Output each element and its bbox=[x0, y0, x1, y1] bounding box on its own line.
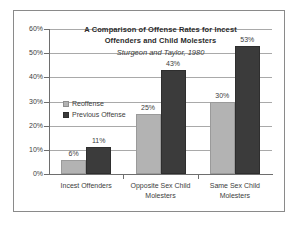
bar bbox=[235, 46, 260, 174]
chart-frame: 0%10%20%30%40%50%60% 6%11%25%43%30%53% I… bbox=[13, 10, 285, 212]
bar bbox=[161, 70, 186, 174]
x-axis-category-label-line: Same Sex Child bbox=[198, 181, 272, 191]
chart-page: 0%10%20%30%40%50%60% 6%11%25%43%30%53% I… bbox=[0, 0, 299, 228]
x-axis-category-label-line: Molesters bbox=[123, 191, 197, 201]
bar-value-label: 43% bbox=[158, 60, 188, 68]
y-axis-tick-label: 10% bbox=[17, 146, 43, 154]
legend-swatch-icon bbox=[63, 101, 69, 107]
y-axis-tick-label: 20% bbox=[17, 122, 43, 130]
chart-legend: ReoffensePrevious Offense bbox=[63, 98, 126, 120]
x-axis-category-label: Incest Offenders bbox=[49, 181, 123, 191]
x-axis-category-label-line: Molesters bbox=[198, 191, 272, 201]
x-axis-category-label-line: Incest Offenders bbox=[49, 181, 123, 191]
y-axis-labels: 0%10%20%30%40%50%60% bbox=[14, 11, 43, 213]
bar-value-label: 11% bbox=[84, 137, 114, 145]
category-axis-line bbox=[49, 174, 273, 175]
bar bbox=[86, 147, 111, 174]
legend-swatch-icon bbox=[63, 112, 69, 118]
legend-item: Reoffense bbox=[63, 98, 126, 109]
x-axis-category-label: Same Sex ChildMolesters bbox=[198, 181, 272, 200]
y-axis-tick-label: 50% bbox=[17, 49, 43, 57]
legend-label: Reoffense bbox=[72, 100, 104, 108]
bar-value-label: 30% bbox=[207, 92, 237, 100]
y-axis-tick-label: 60% bbox=[17, 25, 43, 33]
y-axis-tick bbox=[44, 174, 49, 175]
y-axis-tick-label: 0% bbox=[17, 170, 43, 178]
legend-item: Previous Offense bbox=[63, 109, 126, 120]
bar bbox=[136, 114, 161, 174]
legend-label: Previous Offense bbox=[72, 111, 126, 119]
bar bbox=[210, 102, 235, 175]
bar-value-label: 25% bbox=[133, 104, 163, 112]
y-axis-tick-label: 40% bbox=[17, 73, 43, 81]
x-axis-category-label: Opposite Sex ChildMolesters bbox=[123, 181, 197, 200]
bar-value-label: 6% bbox=[59, 150, 89, 158]
bar bbox=[61, 160, 86, 175]
bar-value-label: 53% bbox=[232, 36, 262, 44]
x-axis-tick bbox=[198, 175, 199, 179]
x-axis-tick bbox=[123, 175, 124, 179]
x-axis-category-label-line: Opposite Sex Child bbox=[123, 181, 197, 191]
y-axis-tick-label: 30% bbox=[17, 98, 43, 106]
